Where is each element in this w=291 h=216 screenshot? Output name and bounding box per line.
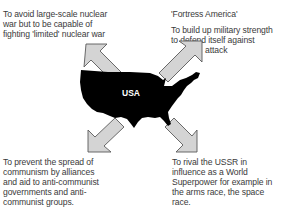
arrow-down-left-icon <box>88 118 124 152</box>
usa-label: USA <box>122 88 140 98</box>
diagram-graphic <box>0 0 291 216</box>
usa-map-icon <box>80 70 200 128</box>
